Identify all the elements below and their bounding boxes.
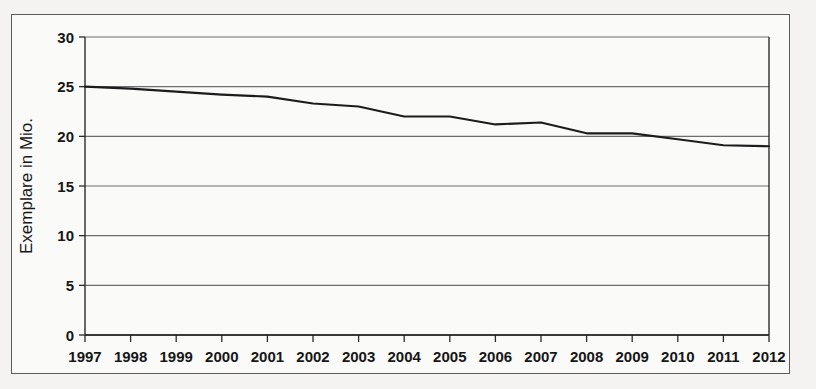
x-tick-label: 2003 — [342, 348, 375, 365]
x-tick-label: 2008 — [570, 348, 603, 365]
series-line — [85, 87, 769, 147]
y-tick-label: 10 — [57, 227, 74, 244]
x-tick-label: 1997 — [68, 348, 101, 365]
y-axis-ticks: 051015202530 — [57, 29, 85, 344]
x-tick-label: 2000 — [205, 348, 238, 365]
data-series — [85, 87, 769, 147]
x-tick-label: 2011 — [707, 348, 740, 365]
y-tick-label: 5 — [66, 277, 74, 294]
y-tick-label: 30 — [57, 29, 74, 46]
y-axis-title-text: Exemplare in Mio. — [17, 118, 36, 254]
x-tick-label: 2004 — [388, 348, 422, 365]
x-tick-label: 1998 — [114, 348, 147, 365]
x-tick-label: 2012 — [752, 348, 785, 365]
x-tick-label: 2001 — [251, 348, 284, 365]
y-tick-label: 20 — [57, 128, 74, 145]
x-tick-label: 2010 — [661, 348, 694, 365]
y-tick-label: 0 — [66, 327, 74, 344]
x-tick-label: 2005 — [433, 348, 466, 365]
y-tick-label: 25 — [57, 78, 74, 95]
line-chart: 051015202530 199719981999200020012002200… — [0, 0, 816, 389]
x-tick-label: 2002 — [296, 348, 329, 365]
x-tick-label: 2006 — [479, 348, 512, 365]
x-tick-label: 2009 — [616, 348, 649, 365]
x-axis-ticks: 1997199819992000200120022003200420052006… — [68, 335, 785, 365]
gridlines — [85, 37, 769, 335]
y-axis-title: Exemplare in Mio. — [17, 118, 36, 254]
x-tick-label: 1999 — [160, 348, 193, 365]
y-tick-label: 15 — [57, 178, 74, 195]
x-tick-label: 2007 — [524, 348, 557, 365]
